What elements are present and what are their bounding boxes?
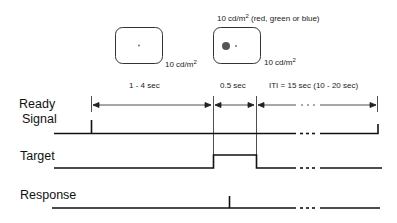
- ready-signal-trace: [54, 120, 378, 134]
- ready-signal-label-line2: Signal: [22, 113, 57, 126]
- fixation-point-icon: [235, 45, 237, 47]
- target-luminance-label: 10 cd/m2: [264, 57, 296, 67]
- target-trace: [54, 155, 382, 168]
- interval-label-iti: ITI = 15 sec (10 - 20 sec): [269, 82, 358, 90]
- response-signal-label: Response: [20, 189, 76, 202]
- target-color-label: 10 cd/m2 (red, green or blue): [217, 13, 320, 23]
- timing-diagram: 10 cd/m2 10 cd/m2 (red, green or blue) 1…: [0, 0, 397, 223]
- fixation-stimulus-box: [116, 28, 163, 64]
- target-dot-icon: [222, 42, 230, 50]
- response-trace: [52, 196, 380, 208]
- fixation-luminance-label: 10 cd/m2: [165, 59, 197, 69]
- interval-arrows: [93, 103, 376, 108]
- target-stimulus-box: [214, 28, 261, 64]
- ready-signal-label-line1: Ready: [19, 98, 55, 111]
- interval-label-fixation: 1 - 4 sec: [129, 82, 160, 90]
- interval-label-target: 0.5 sec: [220, 82, 246, 90]
- target-signal-label: Target: [20, 150, 55, 163]
- fixation-point-icon: [138, 45, 140, 47]
